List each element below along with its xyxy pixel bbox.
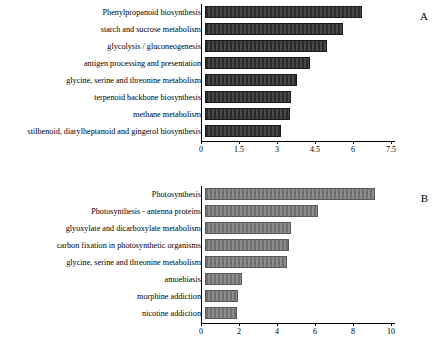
- bar-row: glyoxylate and dicarboxylate metabolism: [0, 220, 436, 237]
- bar: [205, 6, 362, 18]
- bar: [205, 125, 281, 137]
- bar-track: [205, 237, 436, 254]
- x-axis-tick: [239, 141, 240, 144]
- bar-row: stilbenoid, diarylheptanoid and gingerol…: [0, 123, 436, 140]
- x-axis-tick: [315, 141, 316, 144]
- x-axis-tick-label: 4: [275, 327, 279, 336]
- bar-track: [205, 288, 436, 305]
- x-axis-line: [201, 141, 395, 142]
- x-axis-tick-label: 3: [275, 145, 279, 154]
- x-axis-tick: [353, 323, 354, 326]
- bar-row: amoebiasis: [0, 271, 436, 288]
- bar-category-label: glyoxylate and dicarboxylate metabolism: [0, 224, 205, 234]
- bar: [205, 108, 290, 120]
- x-axis-tick-label: 10: [387, 327, 395, 336]
- panel-a-bar-rows: Phenylpropanoid biosynthesisstarch and s…: [0, 4, 436, 140]
- bar-row: Phenylpropanoid biosynthesis: [0, 4, 436, 21]
- bar-track: [205, 21, 436, 38]
- chart-panel-b: B PhotosynthesisPhotosynthesis - antenna…: [0, 186, 436, 358]
- bar-row: methane metabolism: [0, 106, 436, 123]
- bar-category-label: glycolysis / gluconeogenesis: [0, 42, 205, 52]
- bar-row: glycolysis / gluconeogenesis: [0, 38, 436, 55]
- bar: [205, 307, 237, 319]
- bar-track: [205, 123, 436, 140]
- bar-category-label: carbon fixation in photosynthetic organi…: [0, 241, 205, 251]
- bar-row: glycine, serine and threonine metabolism: [0, 72, 436, 89]
- x-axis-tick: [391, 141, 392, 144]
- bar-category-label: terpenoid backbone biosynthesis: [0, 93, 205, 103]
- panel-a-y-axis: [201, 4, 202, 142]
- bar-track: [205, 254, 436, 271]
- x-axis-tick-label: 6: [351, 145, 355, 154]
- bar: [205, 74, 297, 86]
- x-axis-line: [201, 323, 395, 324]
- x-axis-tick-label: 4.5: [310, 145, 320, 154]
- bar-track: [205, 220, 436, 237]
- bar-row: Photosynthesis - antenna proteins: [0, 203, 436, 220]
- bar-row: glycine, serine and threonine metabolism: [0, 254, 436, 271]
- bar: [205, 256, 287, 268]
- bar-track: [205, 55, 436, 72]
- bar: [205, 57, 310, 69]
- bar-track: [205, 203, 436, 220]
- bar-track: [205, 186, 436, 203]
- panel-b-x-axis: 0246810: [201, 323, 397, 343]
- bar: [205, 239, 289, 251]
- bar-row: nicotine addiction: [0, 305, 436, 322]
- x-axis-tick: [353, 141, 354, 144]
- x-axis-tick-label: 0: [199, 145, 203, 154]
- bar-category-label: methane metabolism: [0, 110, 205, 120]
- bar: [205, 273, 242, 285]
- x-axis-tick: [391, 323, 392, 326]
- bar: [205, 205, 318, 217]
- bar-category-label: starch and sucrose metabolism: [0, 25, 205, 35]
- bar: [205, 188, 375, 200]
- bar: [205, 222, 291, 234]
- x-axis-tick-label: 2: [237, 327, 241, 336]
- bar-category-label: stilbenoid, diarylheptanoid and gingerol…: [0, 127, 205, 137]
- bar-track: [205, 72, 436, 89]
- x-axis-tick-label: 0: [199, 327, 203, 336]
- bar-row: starch and sucrose metabolism: [0, 21, 436, 38]
- bar-row: antigen processing and presentation: [0, 55, 436, 72]
- bar-track: [205, 89, 436, 106]
- x-axis-tick-label: 1.5: [234, 145, 244, 154]
- x-axis-tick: [277, 323, 278, 326]
- bar-row: morphine addiction: [0, 288, 436, 305]
- bar-category-label: morphine addiction: [0, 292, 205, 302]
- x-axis-tick-label: 7.5: [386, 145, 396, 154]
- x-axis-tick-label: 8: [351, 327, 355, 336]
- chart-panel-a: A Phenylpropanoid biosynthesisstarch and…: [0, 4, 436, 172]
- bar: [205, 290, 238, 302]
- bar-category-label: nicotine addiction: [0, 309, 205, 319]
- x-axis-tick: [277, 141, 278, 144]
- bar-category-label: Phenylpropanoid biosynthesis: [0, 8, 205, 18]
- figure-container: A Phenylpropanoid biosynthesisstarch and…: [0, 0, 436, 360]
- bar-category-label: antigen processing and presentation: [0, 59, 205, 69]
- bar-track: [205, 106, 436, 123]
- bar-row: terpenoid backbone biosynthesis: [0, 89, 436, 106]
- panel-b-bar-rows: PhotosynthesisPhotosynthesis - antenna p…: [0, 186, 436, 322]
- panel-b-y-axis: [201, 186, 202, 324]
- x-axis-tick: [315, 323, 316, 326]
- bar-track: [205, 305, 436, 322]
- bar-row: carbon fixation in photosynthetic organi…: [0, 237, 436, 254]
- panel-a-x-axis: 01.534.567.5: [201, 141, 397, 161]
- bar-category-label: glycine, serine and threonine metabolism: [0, 76, 205, 86]
- bar-category-label: Photosynthesis: [0, 190, 205, 200]
- bar-category-label: amoebiasis: [0, 275, 205, 285]
- bar: [205, 40, 327, 52]
- bar-category-label: glycine, serine and threonine metabolism: [0, 258, 205, 268]
- bar-track: [205, 4, 436, 21]
- bar-row: Photosynthesis: [0, 186, 436, 203]
- bar-track: [205, 271, 436, 288]
- x-axis-tick-label: 6: [313, 327, 317, 336]
- bar-category-label: Photosynthesis - antenna proteins: [0, 207, 205, 217]
- x-axis-tick: [239, 323, 240, 326]
- bar: [205, 91, 291, 103]
- bar: [205, 23, 343, 35]
- bar-track: [205, 38, 436, 55]
